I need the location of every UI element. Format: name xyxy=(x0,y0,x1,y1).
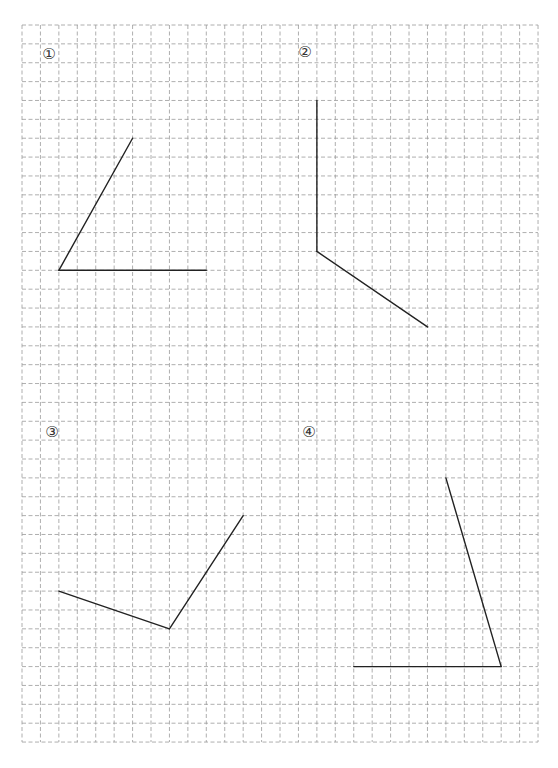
problem-number-label: ④ xyxy=(302,423,315,441)
dashed-grid xyxy=(22,25,538,742)
angle-worksheet: ①②③④ xyxy=(0,0,558,768)
problem-number-label: ② xyxy=(298,43,311,61)
problem-number-label: ③ xyxy=(45,423,58,441)
problem-number-label: ① xyxy=(42,45,55,63)
problem-labels: ①②③④ xyxy=(42,43,315,441)
